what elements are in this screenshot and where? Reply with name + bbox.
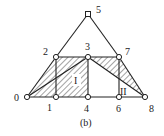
node-label-5: 5 [96, 4, 101, 15]
node-label-6: 6 [116, 103, 121, 114]
node-label-3: 3 [85, 41, 90, 52]
figure-caption: (b) [80, 117, 92, 129]
region-label-i: I [74, 75, 77, 86]
node-7 [116, 54, 121, 59]
node-label-1: 1 [47, 102, 52, 113]
node-label-4: 4 [84, 103, 89, 114]
region-label-ii: II [120, 86, 127, 97]
node-label-7: 7 [125, 46, 130, 57]
node-5 [86, 12, 91, 17]
truss-diagram: 0 1 2 3 4 5 6 7 8 I II (b) [0, 0, 164, 136]
node-label-2: 2 [43, 46, 48, 57]
node-label-8: 8 [149, 103, 154, 114]
node-0 [24, 94, 29, 99]
node-label-0: 0 [14, 92, 19, 103]
node-1 [53, 94, 58, 99]
node-2 [53, 54, 58, 59]
node-8 [142, 94, 147, 99]
node-3 [85, 54, 90, 59]
node-4 [85, 94, 90, 99]
